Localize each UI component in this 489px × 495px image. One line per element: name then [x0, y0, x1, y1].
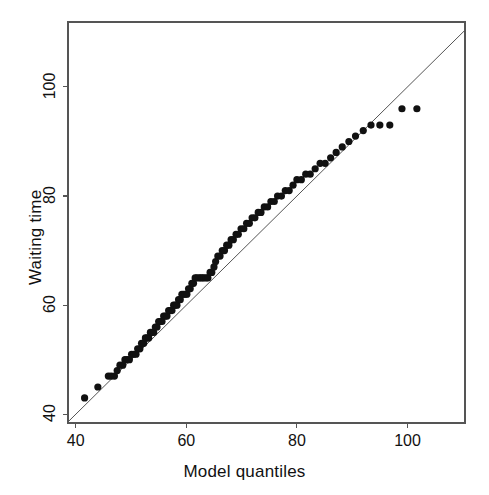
x-tick-label: 60: [156, 432, 216, 450]
x-tick-label: 100: [377, 432, 437, 450]
y-tick-label: 60: [41, 281, 59, 327]
scatter-plot-canvas: [0, 0, 489, 495]
x-axis-title: Model quantiles: [0, 462, 489, 482]
y-tick-label: 100: [41, 63, 59, 109]
y-tick-label: 40: [41, 390, 59, 436]
x-tick-label: 80: [267, 432, 327, 450]
qq-plot-figure: Model quantiles Waiting time 40608010040…: [0, 0, 489, 495]
y-tick-label: 80: [41, 172, 59, 218]
